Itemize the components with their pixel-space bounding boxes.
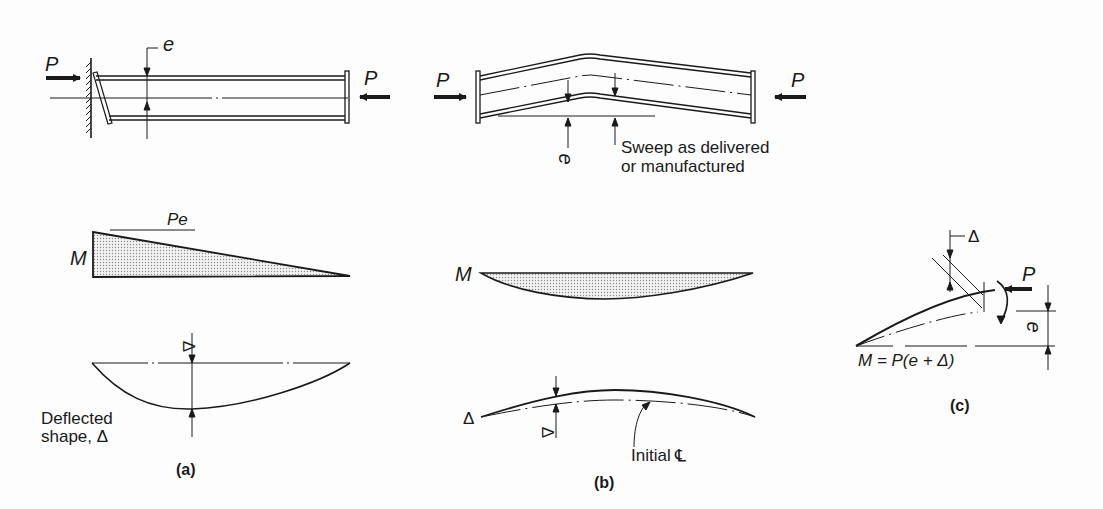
panel-b [434, 54, 806, 447]
deflected-member-c [856, 290, 995, 346]
delta-left-label-b: Δ [463, 410, 474, 427]
sweep-note-line1: Sweep as delivered [621, 139, 769, 156]
deflected-shape-a [92, 333, 350, 437]
panel-c [856, 230, 1056, 370]
load-label-b-left: P [436, 70, 449, 90]
caption-b: (b) [594, 475, 614, 491]
moment-diagram-b [481, 273, 753, 299]
load-label-a-right: P [364, 68, 377, 88]
load-label-a-left: P [45, 54, 58, 74]
load-label-b-right: P [791, 70, 804, 90]
moment-label-a: M [70, 248, 87, 268]
eccentricity-dimension [144, 48, 158, 139]
deflected-shape-b [481, 376, 755, 447]
moment-label-b: M [455, 264, 472, 284]
moment-equation: M = P(e + Δ) [858, 352, 954, 369]
column-a [96, 71, 349, 123]
initial-centerline-label: Initial ℄ [631, 447, 686, 464]
figure-canvas: P P e M Pe Δ Deflected shape, Δ (a) P P … [0, 0, 1103, 509]
delta-label-c: Δ [968, 228, 979, 245]
deflection-label-line2: shape, Δ [41, 428, 108, 445]
panel-a [46, 48, 390, 437]
sweep-note-line2: or manufactured [621, 158, 745, 175]
moment-peak-label: Pe [167, 211, 188, 228]
delta-marker-b: Δ [539, 427, 556, 438]
eccentricity-label-b: e [556, 153, 576, 164]
caption-a: (a) [176, 462, 196, 478]
caption-c: (c) [950, 398, 970, 414]
eccentricity-label-a: e [163, 34, 174, 54]
load-label-c: P [1022, 264, 1035, 284]
deflection-label-line1: Deflected [41, 410, 113, 427]
delta-marker-a: Δ [180, 341, 197, 352]
moment-diagram-a [93, 232, 350, 277]
eccentricity-label-c: e [1024, 321, 1044, 332]
